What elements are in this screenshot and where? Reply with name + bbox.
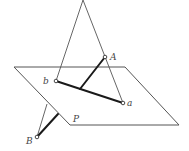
- segment-b-a: [56, 81, 123, 103]
- label-a: a: [127, 98, 132, 108]
- label-b: b: [43, 76, 49, 86]
- plane-p: [14, 67, 179, 125]
- label-P: P: [72, 114, 80, 124]
- ray-apex-to-b: [56, 0, 83, 81]
- projection-diagram: A b a B P: [0, 0, 189, 151]
- label-B: B: [25, 136, 33, 146]
- segment-A-to-ba: [80, 57, 105, 89]
- point-A: [103, 55, 107, 59]
- ray-apex-to-a: [83, 0, 123, 103]
- label-A: A: [109, 52, 117, 62]
- point-B: [35, 135, 39, 139]
- point-a: [121, 101, 125, 105]
- point-b: [54, 79, 58, 83]
